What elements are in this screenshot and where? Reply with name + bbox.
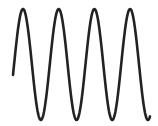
sine-wave-figure bbox=[0, 0, 158, 126]
sine-wave-curve bbox=[13, 9, 150, 120]
sine-wave-plot bbox=[0, 0, 158, 126]
